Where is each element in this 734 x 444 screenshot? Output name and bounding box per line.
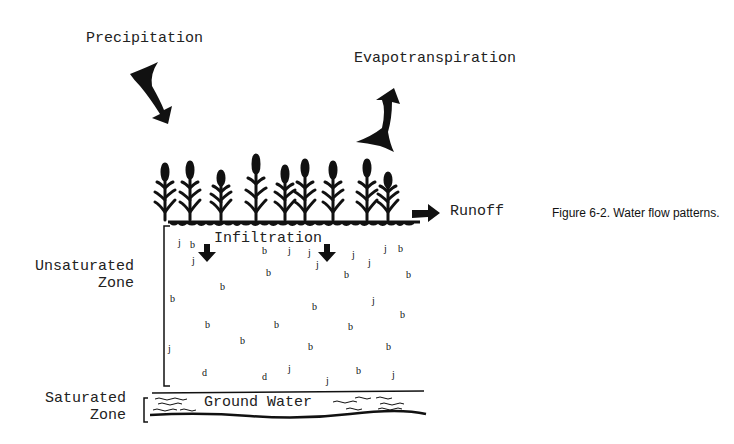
svg-text:j: j: [191, 255, 195, 266]
unsaturated-zone-line1: Unsaturated: [28, 258, 134, 275]
unsaturated-zone-label: Unsaturated Zone: [28, 258, 134, 292]
precipitation-arrow-icon: [130, 62, 172, 124]
infiltration-label: Infiltration: [214, 230, 322, 247]
unsaturated-zone-line2: Zone: [28, 275, 134, 292]
svg-text:d: d: [202, 367, 207, 378]
svg-text:j: j: [371, 295, 375, 306]
evapotranspiration-arrow-icon: [356, 88, 400, 152]
ground-water-label: Ground Water: [202, 394, 314, 411]
saturated-zone-line1: Saturated: [20, 390, 126, 407]
saturated-zone-bracket: [144, 398, 148, 422]
svg-text:b: b: [266, 267, 271, 278]
unsaturated-zone-bracket: [164, 226, 170, 386]
plant-icon: [155, 155, 398, 220]
runoff-label: Runoff: [450, 203, 504, 220]
svg-text:b: b: [356, 365, 361, 376]
svg-text:b: b: [400, 309, 405, 320]
droplet-icon: jbbb jjjjb jbbj bjbb bjbb bbjb bbdd jjbj: [167, 237, 411, 386]
svg-text:b: b: [205, 319, 210, 330]
svg-text:b: b: [220, 281, 225, 292]
saturated-zone-label: Saturated Zone: [20, 390, 126, 424]
svg-text:j: j: [325, 375, 329, 386]
svg-text:j: j: [167, 343, 171, 354]
svg-text:j: j: [367, 257, 371, 268]
evapotranspiration-label: Evapotranspiration: [354, 50, 516, 67]
saturated-zone-line2: Zone: [20, 407, 126, 424]
svg-text:d: d: [262, 371, 267, 382]
svg-text:b: b: [344, 269, 349, 280]
svg-text:b: b: [170, 293, 175, 304]
svg-text:j: j: [315, 259, 319, 270]
svg-text:b: b: [312, 301, 317, 312]
svg-text:j: j: [351, 249, 355, 260]
svg-text:j: j: [383, 243, 387, 254]
precipitation-label: Precipitation: [86, 30, 203, 47]
svg-text:b: b: [398, 243, 403, 254]
svg-text:j: j: [307, 247, 311, 258]
svg-text:j: j: [177, 237, 181, 248]
svg-text:j: j: [287, 363, 291, 374]
svg-text:b: b: [406, 269, 411, 280]
svg-text:b: b: [386, 341, 391, 352]
svg-text:b: b: [348, 321, 353, 332]
svg-text:b: b: [190, 239, 195, 250]
svg-text:j: j: [391, 369, 395, 380]
runoff-arrow-icon: [412, 204, 440, 222]
figure-caption: Figure 6-2. Water flow patterns.: [552, 206, 720, 220]
svg-text:b: b: [308, 341, 313, 352]
soil-surface: [170, 222, 414, 226]
svg-text:b: b: [274, 319, 279, 330]
svg-text:b: b: [240, 335, 245, 346]
